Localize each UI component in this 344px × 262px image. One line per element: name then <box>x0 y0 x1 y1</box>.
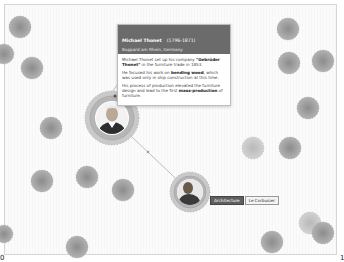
tooltip-header: Michael Thonet (1796-1871) Boppard am Rh… <box>118 25 230 54</box>
tooltip-body: Michael Thonet set up his company "Gebrü… <box>118 54 230 105</box>
tooltip-paragraph: His process of production elevated the f… <box>122 83 226 99</box>
node[interactable] <box>40 117 62 139</box>
category-badge[interactable]: Architecture <box>210 196 244 205</box>
tooltip-place: Boppard am Rhein, Germany <box>122 47 226 52</box>
node[interactable] <box>31 170 53 192</box>
person-node-le-corbusier[interactable] <box>170 172 210 212</box>
node[interactable] <box>66 236 88 258</box>
node[interactable] <box>261 231 283 253</box>
node-faded[interactable] <box>242 137 264 159</box>
node[interactable] <box>112 179 134 201</box>
tooltip-years: (1796-1871) <box>167 38 196 43</box>
tooltip-paragraph: He focused his work on bending wood, whi… <box>122 70 226 81</box>
edge-midpoint <box>147 151 149 153</box>
node[interactable] <box>76 166 98 188</box>
tooltip-paragraph: Michael Thonet set up his company "Gebrü… <box>122 57 226 68</box>
person-tooltip: Michael Thonet (1796-1871) Boppard am Rh… <box>117 24 231 106</box>
node[interactable] <box>279 137 301 159</box>
edge-mark-left: 0 <box>0 254 4 262</box>
node[interactable] <box>21 57 43 79</box>
node-labels: Architecture Le Corbusier <box>210 196 279 205</box>
node[interactable] <box>0 44 14 64</box>
tooltip-name: Michael Thonet <box>122 38 162 43</box>
node[interactable] <box>277 18 299 40</box>
node[interactable] <box>312 222 334 244</box>
node[interactable] <box>0 225 13 243</box>
node[interactable] <box>9 16 31 38</box>
edge-mark-right: 1 <box>340 254 344 262</box>
node[interactable] <box>312 50 334 72</box>
node[interactable] <box>297 97 319 119</box>
node[interactable] <box>278 52 300 74</box>
person-badge[interactable]: Le Corbusier <box>245 196 279 205</box>
